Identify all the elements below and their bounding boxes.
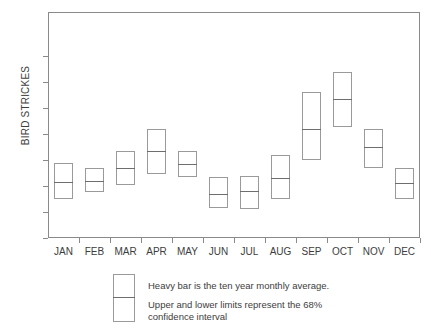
mean-line-oct [333, 99, 352, 100]
mean-line-aug [271, 178, 290, 179]
mean-line-nov [364, 147, 383, 148]
mean-line-sep [302, 129, 321, 130]
legend-text-limits-line1: Upper and lower limits represent the 68% [148, 299, 322, 311]
x-axis-tick-mark [79, 238, 80, 243]
x-axis-tick-mark [389, 238, 390, 243]
confidence-bar-jan [54, 163, 73, 199]
chart-legend: Heavy bar is the ten year monthly averag… [113, 274, 413, 326]
x-axis-tick-mark [203, 238, 204, 243]
x-axis-tick-mark [420, 238, 421, 243]
legend-swatch-mean-line [113, 297, 135, 298]
legend-swatch-box [113, 274, 135, 322]
mean-line-feb [85, 181, 104, 182]
x-axis-tick-mark [358, 238, 359, 243]
confidence-bar-jun [209, 177, 228, 208]
mean-line-apr [147, 151, 166, 152]
legend-text-limits-line2: confidence interval [148, 311, 227, 323]
x-axis-tick-mark [110, 238, 111, 243]
confidence-bar-nov [364, 129, 383, 168]
x-axis-tick-label-dec: DEC [385, 247, 425, 257]
chart-figure: BIRD STRICKES 010203040506070 JANFEBMARA… [0, 0, 431, 336]
x-axis-tick-mark [265, 238, 266, 243]
mean-line-jan [54, 182, 73, 183]
mean-line-may [178, 164, 197, 165]
y-axis-label: BIRD STRICKES [20, 31, 31, 181]
x-axis-tick-mark [172, 238, 173, 243]
mean-line-dec [395, 183, 414, 184]
mean-line-jun [209, 194, 228, 195]
mean-line-mar [116, 168, 135, 169]
confidence-bar-aug [271, 155, 290, 199]
legend-text-average: Heavy bar is the ten year monthly averag… [148, 280, 329, 292]
confidence-bar-jul [240, 176, 259, 210]
mean-line-jul [240, 191, 259, 192]
y-axis-tick-mark [43, 238, 48, 239]
x-axis-tick-mark [296, 238, 297, 243]
x-axis-tick-mark [234, 238, 235, 243]
plot-area [48, 12, 420, 238]
confidence-bar-sep [302, 92, 321, 160]
x-axis-tick-mark [327, 238, 328, 243]
x-axis-tick-mark [141, 238, 142, 243]
